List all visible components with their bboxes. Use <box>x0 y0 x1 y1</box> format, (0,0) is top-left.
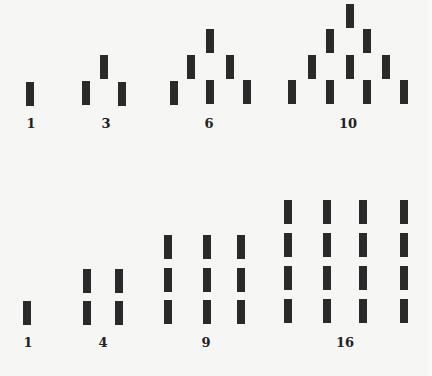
bar-mark <box>326 80 334 104</box>
bar-mark <box>288 80 296 104</box>
bar-mark <box>308 55 316 79</box>
square-label-16: 16 <box>336 336 354 350</box>
bar-mark <box>326 29 334 53</box>
bar-mark <box>323 233 331 257</box>
bar-mark <box>243 80 251 104</box>
bar-mark <box>206 80 214 104</box>
triangular-label-3: 3 <box>101 117 110 131</box>
bar-mark <box>203 300 211 324</box>
bar-mark <box>382 55 390 79</box>
bar-mark <box>346 55 354 79</box>
bar-mark <box>206 29 214 53</box>
figure-triangular-square-numbers: 1 3 6 10 1 4 9 16 <box>0 0 432 376</box>
bar-mark <box>284 266 292 290</box>
bar-mark <box>83 301 91 325</box>
bar-mark <box>115 269 123 293</box>
bar-mark <box>400 266 408 290</box>
bar-mark <box>363 29 371 53</box>
bar-mark <box>323 200 331 224</box>
bar-mark <box>400 200 408 224</box>
bar-mark <box>118 82 126 106</box>
bar-mark <box>23 301 31 325</box>
bar-mark <box>164 268 172 292</box>
bar-mark <box>400 80 408 104</box>
bar-mark <box>83 269 91 293</box>
bar-mark <box>359 299 367 323</box>
bar-mark <box>164 300 172 324</box>
bar-mark <box>170 81 178 105</box>
triangular-label-6: 6 <box>204 117 213 131</box>
bar-mark <box>284 233 292 257</box>
bar-mark <box>203 235 211 259</box>
bar-mark <box>400 233 408 257</box>
triangular-label-1: 1 <box>26 117 35 131</box>
square-label-1: 1 <box>23 336 32 350</box>
bar-mark <box>115 301 123 325</box>
bar-mark <box>400 299 408 323</box>
bar-mark <box>237 235 245 259</box>
bar-mark <box>363 80 371 104</box>
page-edge-shadow <box>426 0 432 376</box>
bar-mark <box>203 268 211 292</box>
bar-mark <box>284 299 292 323</box>
triangular-label-10: 10 <box>339 117 357 131</box>
bar-mark <box>226 55 234 79</box>
square-label-9: 9 <box>201 336 210 350</box>
bar-mark <box>323 266 331 290</box>
bar-mark <box>82 81 90 105</box>
bar-mark <box>26 82 34 106</box>
bar-mark <box>237 300 245 324</box>
bar-mark <box>359 266 367 290</box>
bar-mark <box>284 200 292 224</box>
bar-mark <box>323 299 331 323</box>
bar-mark <box>164 235 172 259</box>
bar-mark <box>100 55 108 79</box>
bar-mark <box>359 233 367 257</box>
bar-mark <box>359 200 367 224</box>
bar-mark <box>346 4 354 28</box>
bar-mark <box>187 55 195 79</box>
square-label-4: 4 <box>98 336 107 350</box>
bar-mark <box>237 268 245 292</box>
